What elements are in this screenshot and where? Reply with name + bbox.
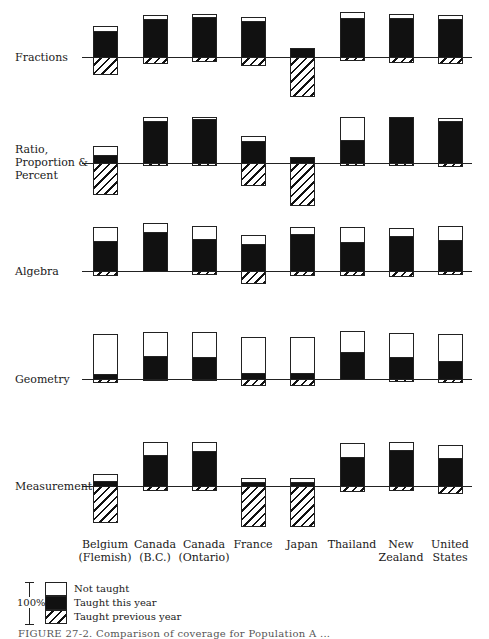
segment-not-taught <box>290 478 315 483</box>
legend-swatch-taught-this-year <box>45 596 67 610</box>
segment-taught-this-year <box>389 450 414 487</box>
segment-taught-this-year <box>143 121 168 164</box>
scale-label: 100% <box>17 597 46 608</box>
segment-taught-this-year <box>143 232 168 272</box>
segment-taught-previous-year <box>241 163 266 186</box>
segment-not-taught <box>438 445 463 459</box>
segment-taught-previous-year <box>241 57 266 66</box>
segment-taught-this-year <box>438 361 463 380</box>
segment-taught-this-year <box>143 455 168 487</box>
segment-taught-this-year <box>241 244 266 272</box>
segment-taught-this-year <box>192 119 217 164</box>
segment-not-taught <box>340 117 365 141</box>
segment-taught-previous-year <box>438 57 463 64</box>
row-label-measurement: Measurement <box>15 480 92 493</box>
segment-taught-this-year <box>389 236 414 272</box>
segment-not-taught <box>389 333 414 358</box>
row-label-algebra: Algebra <box>15 265 59 278</box>
segment-taught-previous-year <box>192 163 217 166</box>
segment-taught-previous-year <box>192 57 217 62</box>
legend-label-taught-previous-year: Taught previous year <box>74 611 181 623</box>
segment-taught-this-year <box>389 18 414 58</box>
segment-taught-this-year <box>192 357 217 380</box>
segment-taught-this-year <box>192 239 217 272</box>
segment-taught-previous-year <box>340 486 365 492</box>
legend-swatch-taught-previous-year <box>45 610 67 624</box>
segment-taught-previous-year <box>192 271 217 275</box>
segment-taught-previous-year <box>93 163 118 195</box>
segment-taught-previous-year <box>290 271 315 276</box>
segment-not-taught <box>438 118 463 122</box>
segment-taught-previous-year <box>143 379 168 381</box>
segment-taught-previous-year <box>192 486 217 491</box>
segment-not-taught <box>438 334 463 362</box>
country-label: United States <box>420 538 480 564</box>
segment-not-taught <box>143 117 168 122</box>
segment-taught-this-year <box>438 458 463 487</box>
segment-taught-this-year <box>340 457 365 487</box>
segment-not-taught <box>241 17 266 22</box>
legend: 100% Not taught Taught this year Taught … <box>14 582 214 626</box>
segment-taught-previous-year <box>93 271 118 276</box>
segment-not-taught <box>93 334 118 375</box>
segment-taught-previous-year <box>438 379 463 383</box>
scale-bracket-top <box>25 582 34 583</box>
segment-not-taught <box>389 442 414 451</box>
segment-taught-previous-year <box>192 379 217 381</box>
legend-label-not-taught: Not taught <box>74 583 129 595</box>
segment-not-taught <box>192 117 217 120</box>
coverage-chart: FractionsRatio, Proportion & PercentAlge… <box>0 0 489 639</box>
segment-taught-previous-year <box>340 271 365 276</box>
segment-not-taught <box>438 15 463 20</box>
segment-taught-previous-year <box>438 163 463 167</box>
segment-taught-previous-year <box>389 271 414 277</box>
segment-not-taught <box>340 331 365 353</box>
segment-not-taught <box>241 235 266 245</box>
segment-not-taught <box>93 146 118 156</box>
segment-taught-previous-year <box>389 486 414 491</box>
segment-taught-this-year <box>93 31 118 58</box>
segment-taught-previous-year <box>290 163 315 206</box>
segment-taught-previous-year <box>93 379 118 383</box>
segment-taught-this-year <box>340 18 365 58</box>
segment-taught-this-year <box>438 19 463 58</box>
segment-taught-this-year <box>241 141 266 164</box>
row-label-geometry: Geometry <box>15 373 70 386</box>
segment-taught-this-year <box>143 356 168 380</box>
segment-taught-this-year <box>438 240 463 272</box>
segment-taught-previous-year <box>389 163 414 166</box>
legend-label-taught-this-year: Taught this year <box>74 597 157 609</box>
segment-taught-this-year <box>340 352 365 380</box>
segment-taught-previous-year <box>340 163 365 166</box>
segment-not-taught <box>93 474 118 482</box>
segment-not-taught <box>290 337 315 374</box>
segment-taught-previous-year <box>438 271 463 275</box>
figure-caption: FIGURE 27-2. Comparison of coverage for … <box>18 628 330 639</box>
segment-not-taught <box>340 12 365 19</box>
segment-taught-this-year <box>93 241 118 272</box>
segment-taught-previous-year <box>290 379 315 386</box>
segment-taught-previous-year <box>143 57 168 64</box>
segment-taught-this-year <box>143 19 168 58</box>
segment-taught-previous-year <box>340 57 365 61</box>
segment-not-taught <box>389 14 414 19</box>
row-label-ratio-proportion-percent: Ratio, Proportion & Percent <box>15 143 88 182</box>
segment-taught-previous-year <box>389 379 414 382</box>
segment-taught-previous-year <box>438 486 463 494</box>
segment-not-taught <box>143 332 168 357</box>
segment-taught-this-year <box>340 242 365 272</box>
row-label-fractions: Fractions <box>15 51 68 64</box>
segment-taught-this-year <box>290 234 315 272</box>
segment-not-taught <box>290 227 315 235</box>
segment-not-taught <box>340 443 365 458</box>
segment-not-taught <box>389 228 414 237</box>
segment-taught-this-year <box>192 17 217 58</box>
segment-taught-this-year <box>340 140 365 164</box>
segment-taught-this-year <box>241 21 266 58</box>
segment-taught-this-year <box>438 121 463 164</box>
segment-not-taught <box>93 26 118 32</box>
segment-not-taught <box>340 227 365 243</box>
segment-taught-previous-year <box>241 486 266 527</box>
segment-taught-previous-year <box>93 486 118 523</box>
segment-not-taught <box>192 14 217 18</box>
